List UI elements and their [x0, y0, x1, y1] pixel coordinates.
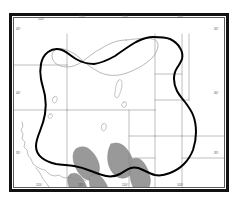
- axis-tick-label-top-1: 120°: [38, 18, 44, 21]
- secondary-region-outline: [52, 38, 158, 75]
- secondary-region-layer: [52, 38, 158, 75]
- axis-tick-label-top-4: 105°: [177, 16, 183, 19]
- axis-tick-label-bottom-1: 120°: [36, 184, 42, 187]
- lake-2: [122, 102, 127, 108]
- axis-tick-label-right-1: 45°: [214, 28, 219, 31]
- axis-tick-label-bottom-3: 110°: [122, 184, 128, 187]
- lakes-layer: [48, 80, 126, 131]
- lake-3: [52, 96, 57, 103]
- map-figure: 120°115°110°105°120°115°110°105°45°40°35…: [0, 0, 238, 205]
- lake-5: [101, 123, 106, 131]
- axis-tick-label-bottom-2: 115°: [78, 184, 84, 187]
- axis-tick-label-left-3: 35°: [16, 152, 21, 155]
- axis-tick-label-top-2: 115°: [79, 16, 85, 19]
- axis-tick-label-left-2: 40°: [16, 92, 21, 95]
- lake-1: [115, 80, 122, 98]
- axis-tick-label-right-3: 35°: [214, 152, 219, 155]
- axis-tick-label-left-1: 45°: [16, 28, 21, 31]
- axis-tick-label-bottom-4: 105°: [177, 184, 183, 187]
- shaded-regions-layer: [68, 143, 151, 188]
- axis-tick-label-top-3: 110°: [122, 16, 128, 19]
- lake-4: [48, 114, 52, 119]
- map-canvas: [14, 18, 225, 188]
- map-plot-area: [13, 17, 225, 188]
- axis-tick-label-right-2: 40°: [214, 92, 219, 95]
